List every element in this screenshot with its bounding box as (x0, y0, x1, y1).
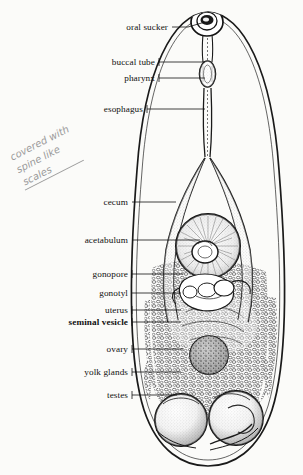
label-testes: testes (107, 390, 128, 400)
oral-sucker (191, 8, 223, 36)
label-pharynx: pharynx (124, 73, 155, 83)
label-seminal-vesicle: seminal vesicle (69, 317, 128, 327)
buccal-tube (202, 34, 213, 62)
label-yolk-glands: yolk glands (84, 367, 128, 377)
handwritten-annotation: covered with spine like scales (6, 123, 84, 190)
acetabulum (176, 214, 240, 278)
label-buccal-tube: buccal tube (112, 57, 155, 67)
ovary (190, 336, 228, 374)
esophagus (203, 88, 211, 157)
label-uterus: uterus (105, 305, 128, 315)
label-oral-sucker: oral sucker (126, 22, 168, 32)
pharynx (200, 61, 216, 87)
label-cecum: cecum (104, 197, 128, 207)
label-ovary: ovary (107, 344, 129, 354)
trematode-anatomy-figure: oral sucker buccal tube pharynx esophagu… (0, 0, 303, 475)
label-gonotyl: gonotyl (99, 288, 128, 298)
label-gonopore: gonopore (93, 269, 129, 279)
label-acetabulum: acetabulum (85, 235, 128, 245)
label-esophagus: esophagus (104, 104, 143, 114)
